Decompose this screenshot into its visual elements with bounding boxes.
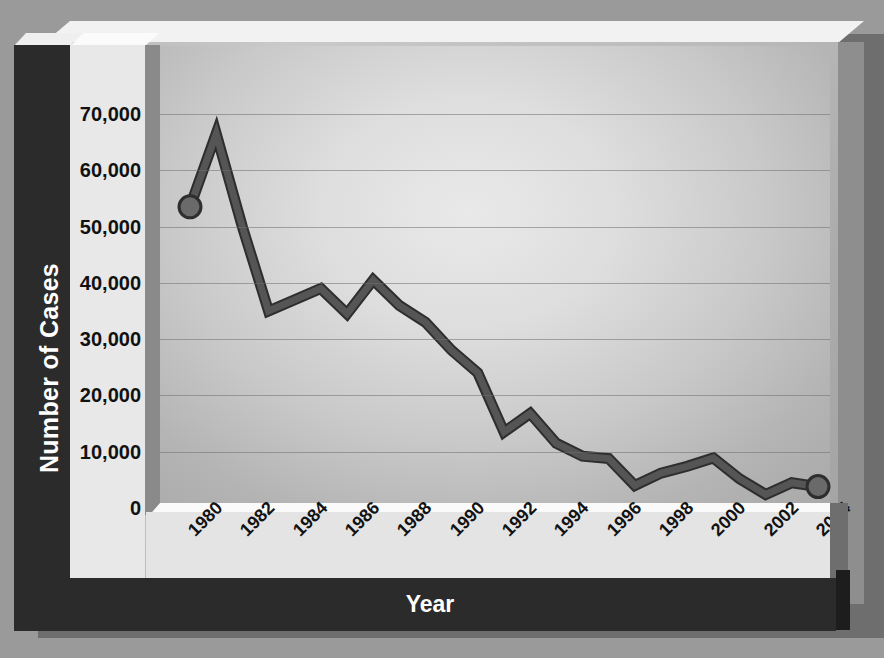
y-panel-side-bevel xyxy=(145,45,160,515)
y-axis-tick-label: 10,000 xyxy=(70,440,145,463)
data-line-outline xyxy=(190,134,818,495)
data-line xyxy=(190,134,818,495)
y-axis-tick-label: 50,000 xyxy=(70,215,145,238)
y-axis-tick-label: 40,000 xyxy=(70,271,145,294)
gridline xyxy=(160,395,830,396)
y-axis-tick-label: 20,000 xyxy=(70,384,145,407)
data-point-marker xyxy=(179,196,201,218)
x-title-band-right-bevel xyxy=(836,570,850,630)
back-wall-top-bevel xyxy=(44,21,864,43)
data-point-marker xyxy=(807,476,829,498)
y-axis-tick-label: 0 xyxy=(70,497,145,520)
plot-area xyxy=(160,46,830,508)
gridline xyxy=(160,339,830,340)
y-axis-title-band: Number of Cases xyxy=(14,45,70,602)
gridline xyxy=(160,283,830,284)
x-axis-title: Year xyxy=(24,578,836,631)
y-axis-tick-label: 30,000 xyxy=(70,328,145,351)
gridline xyxy=(160,227,830,228)
gridline xyxy=(160,452,830,453)
gridline xyxy=(160,170,830,171)
y-axis-tick-panel: 70,00060,00050,00040,00030,00020,00010,0… xyxy=(70,45,145,602)
y-axis-tick-label: 60,000 xyxy=(70,159,145,182)
data-line-series xyxy=(160,46,830,508)
y-axis-tick-label: 70,000 xyxy=(70,103,145,126)
gridline xyxy=(160,114,830,115)
